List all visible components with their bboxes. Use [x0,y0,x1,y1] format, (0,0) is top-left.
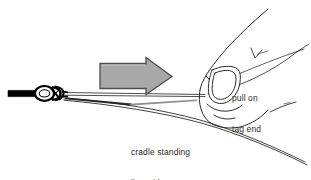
knot-diagram-figure: pull on tag end cradle standing line wit… [0,0,311,180]
annotation-pull-on-tag-end: pull on tag end [232,73,261,155]
annotation-pull-on-tag-end-line-2: tag end [232,124,261,134]
little-finger [270,102,296,112]
standing-line [62,93,205,97]
direction-arrow [100,58,172,95]
annotation-pull-on-tag-end-line-1: pull on [232,93,261,103]
finger-crease-tick [251,48,268,58]
knot [8,86,68,101]
annotation-cradle-standing-line-line-1: cradle standing [131,147,190,157]
line-crossing-shading [64,98,198,106]
annotation-cradle-standing-line-line-2: line with [131,178,190,180]
annotation-cradle-standing-line: cradle standing line with other fingers [131,127,190,180]
